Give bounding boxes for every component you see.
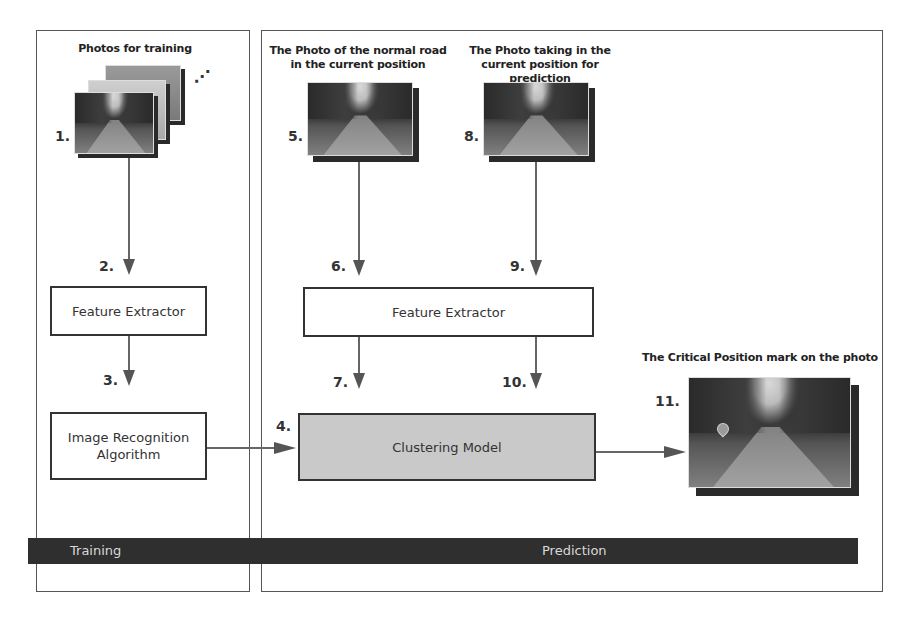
connector-1-2 <box>128 158 130 263</box>
arrow-right-icon <box>664 446 686 458</box>
connector-3-4 <box>207 447 279 449</box>
step-9-label: 9. <box>510 258 525 274</box>
training-feature-extractor-box: Feature Extractor <box>50 286 207 336</box>
connector-clustering-11 <box>596 451 668 453</box>
step-10-label: 10. <box>502 374 527 390</box>
step-6-label: 6. <box>331 258 346 274</box>
step-11-label: 11. <box>655 393 680 409</box>
step-7-label: 7. <box>333 374 348 390</box>
normal-road-photo <box>307 82 413 156</box>
normal-photo-title: The Photo of the normal road in the curr… <box>268 44 448 72</box>
current-road-photo <box>483 82 589 156</box>
arrow-down-icon <box>530 373 542 389</box>
step-1-label: 1. <box>55 128 70 144</box>
output-photo-title: The Critical Position mark on the photo <box>640 351 880 365</box>
normal-photo-title-line2: in the current position <box>268 58 448 72</box>
step-5-label: 5. <box>288 128 303 144</box>
training-photos-title: Photos for training <box>60 42 210 56</box>
current-photo-title: The Photo taking in the current position… <box>450 44 630 86</box>
normal-photo-title-line1: The Photo of the normal road <box>268 44 448 58</box>
image-recognition-line2: Algorithm <box>97 446 161 463</box>
step-3-label: 3. <box>103 372 118 388</box>
training-photo-front <box>74 92 154 154</box>
connector-8-9 <box>535 162 537 265</box>
arrow-down-icon <box>123 370 135 386</box>
arrow-down-icon <box>123 259 135 275</box>
arrow-down-icon <box>353 260 365 276</box>
step-8-label: 8. <box>464 128 479 144</box>
current-photo-title-line1: The Photo taking in the <box>450 44 630 58</box>
arrow-right-icon <box>274 442 296 454</box>
image-recognition-box: Image Recognition Algorithm <box>50 412 207 480</box>
prediction-feature-extractor-box: Feature Extractor <box>303 287 594 337</box>
phase-band <box>28 538 858 564</box>
more-photos-indicator: ⋰ <box>194 74 210 80</box>
training-band-label: Training <box>70 543 121 558</box>
clustering-model-box: Clustering Model <box>298 413 596 481</box>
step-2-label: 2. <box>99 258 114 274</box>
arrow-down-icon <box>353 373 365 389</box>
prediction-band-label: Prediction <box>542 543 607 558</box>
critical-position-photo <box>688 377 851 488</box>
arrow-down-icon <box>530 260 542 276</box>
image-recognition-line1: Image Recognition <box>68 429 189 446</box>
connector-5-6 <box>358 162 360 265</box>
step-4-label: 4. <box>276 418 291 434</box>
